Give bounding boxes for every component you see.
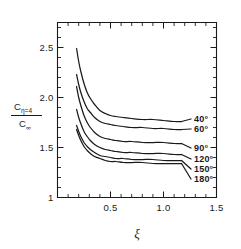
x-tick-label: 1.5 <box>209 202 223 213</box>
x-tick-label: 0.5 <box>103 202 117 213</box>
series-leader-60deg <box>182 129 191 130</box>
series-curve-40deg <box>77 49 182 122</box>
series-label-60deg: 60° <box>194 124 208 134</box>
series-leader-lines <box>182 119 191 179</box>
figure-container: 0.51.01.511.52.02.5 40°60°90°120°150°180… <box>0 0 241 249</box>
series-label-120deg: 120° <box>194 154 214 164</box>
series-leader-90deg <box>182 144 191 149</box>
series-label-150deg: 150° <box>194 164 214 174</box>
y-tick-label: 2.0 <box>39 92 53 103</box>
y-axis-denominator: C <box>19 118 26 129</box>
line-chart: 0.51.01.511.52.02.5 40°60°90°120°150°180… <box>0 0 241 249</box>
series-leader-120deg <box>182 155 191 160</box>
y-axis-numerator: C <box>14 101 21 112</box>
data-curves <box>77 49 182 164</box>
y-axis-title: C η=4 C ∞ <box>11 101 42 131</box>
y-tick-label: 1 <box>48 192 54 203</box>
x-tick-label: 1.0 <box>156 202 170 213</box>
axis-ticks <box>58 23 217 198</box>
series-label-90deg: 90° <box>194 143 208 153</box>
series-leader-40deg <box>182 119 191 122</box>
y-axis-denominator-subscript: ∞ <box>26 124 31 131</box>
series-curve-120deg <box>77 110 182 155</box>
x-axis-title: ξ <box>134 226 140 241</box>
series-label-40deg: 40° <box>194 114 208 124</box>
series-leader-180deg <box>182 164 191 180</box>
y-axis-numerator-subscript: η=4 <box>21 107 32 115</box>
y-tick-label: 2.5 <box>39 42 53 53</box>
y-tick-label: 1.5 <box>39 142 53 153</box>
plot-frame <box>58 23 217 198</box>
series-labels: 40°60°90°120°150°180° <box>194 114 214 184</box>
series-curve-180deg <box>77 130 182 164</box>
series-label-180deg: 180° <box>194 174 214 184</box>
